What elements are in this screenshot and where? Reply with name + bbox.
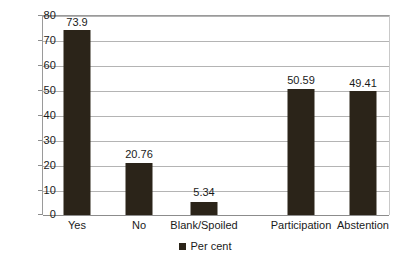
bar-value-yes: 73.9 xyxy=(66,17,87,28)
bar-no[interactable] xyxy=(126,163,153,215)
x-axis-label-participation: Participation xyxy=(271,219,332,231)
bar-value-participation: 50.59 xyxy=(287,75,315,86)
x-axis-label-no: No xyxy=(132,219,146,231)
bar-blank-spoiled[interactable] xyxy=(191,202,218,215)
bar-chart: 80 70 60 50 40 30 20 10 0 73.9 20.76 5.3… xyxy=(0,0,410,263)
bar-slot-no: 20.76 xyxy=(104,15,174,215)
legend: Per cent xyxy=(0,241,410,252)
bar-value-blank-spoiled: 5.34 xyxy=(193,187,214,198)
bars-layer: 73.9 20.76 5.34 50.59 49.41 xyxy=(42,15,390,215)
bar-slot-participation: 50.59 xyxy=(266,15,336,215)
bar-slot-abstention: 49.41 xyxy=(328,15,398,215)
bar-value-no: 20.76 xyxy=(125,149,153,160)
legend-label-per-cent: Per cent xyxy=(191,241,232,252)
x-axis-labels: Yes No Blank/Spoiled Participation Abste… xyxy=(42,219,390,235)
bar-slot-yes: 73.9 xyxy=(42,15,112,215)
bar-slot-blank-spoiled: 5.34 xyxy=(169,15,239,215)
x-axis-label-yes: Yes xyxy=(68,219,86,231)
bar-participation[interactable] xyxy=(288,89,315,215)
x-axis-label-abstention: Abstention xyxy=(337,219,389,231)
gridline-0-baseline xyxy=(43,215,389,216)
legend-swatch-per-cent xyxy=(179,243,186,250)
bar-value-abstention: 49.41 xyxy=(349,78,377,89)
bar-abstention[interactable] xyxy=(350,91,377,215)
bar-yes[interactable] xyxy=(64,30,91,215)
x-axis-label-blank-spoiled: Blank/Spoiled xyxy=(170,219,237,231)
